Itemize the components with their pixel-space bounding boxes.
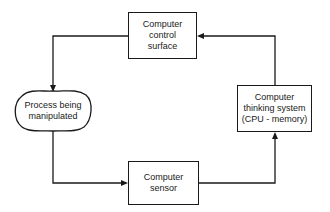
- process-being-manipulated-node: Process being manipulated: [15, 91, 91, 131]
- label-line: manipulated: [28, 111, 77, 122]
- label-line: sensor: [150, 183, 177, 194]
- label-line: Computer: [255, 92, 295, 103]
- label-line: (CPU - memory): [242, 114, 308, 125]
- computer-control-surface-box: Computer control surface: [128, 12, 197, 59]
- label-line: thinking system: [243, 103, 305, 114]
- label-line: control: [149, 30, 176, 41]
- label-line: surface: [148, 41, 178, 52]
- label-line: Process being: [24, 100, 81, 111]
- label-line: Computer: [144, 172, 184, 183]
- feedback-loop-diagram: Computer control surface Process being m…: [0, 0, 330, 212]
- computer-thinking-system-box: Computer thinking system (CPU - memory): [237, 85, 312, 132]
- label-line: Computer: [143, 19, 183, 30]
- computer-sensor-box: Computer sensor: [128, 161, 199, 205]
